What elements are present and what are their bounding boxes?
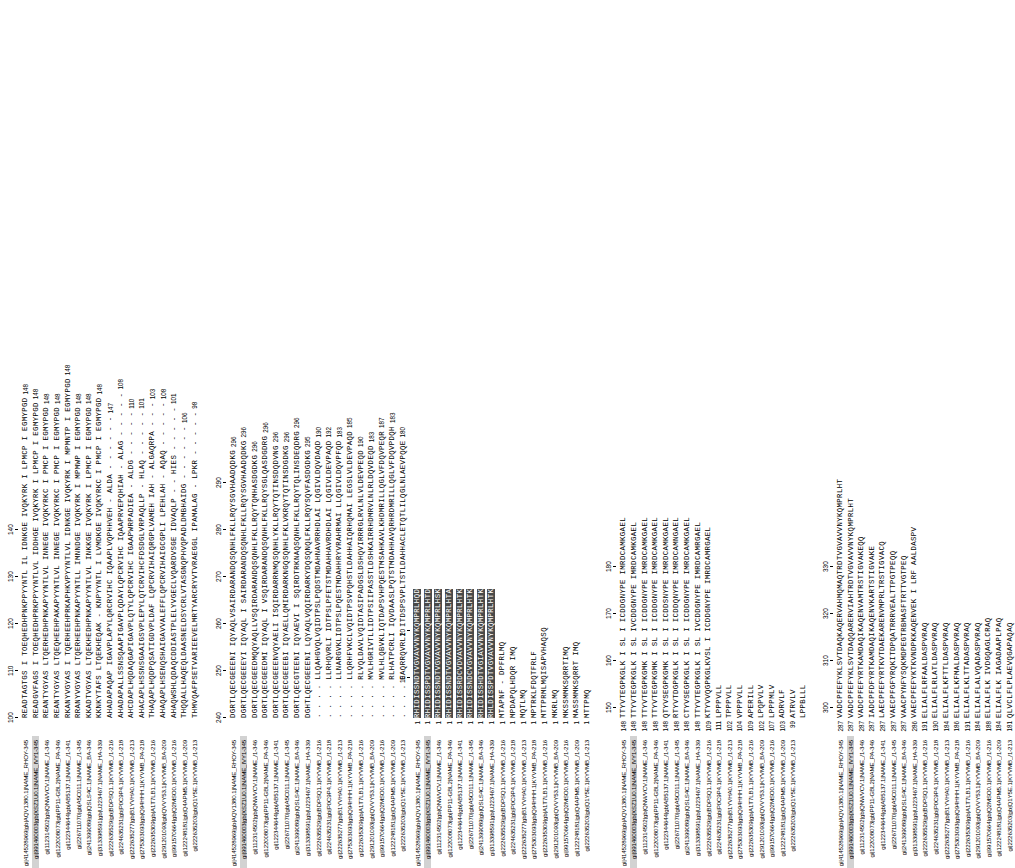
alignment-row: gi|291201093|gb|QVVY53.1|KYVMB_BA-209AHA… — [158, 357, 169, 868]
sequence-label: gi|224635231|gb|P0C9P4.1|KYVMB_/1-218 — [117, 736, 124, 868]
sequence-label: gi|991570664|gb|Q2MSO0.1|KYVMB_/1-216 — [378, 736, 385, 868]
alignment-row: gi|122008073|gb|PP11-GBL2|NAME_PA-346DGR… — [260, 357, 271, 868]
sequence-residues: REANTYGYAS LTQERHEDHPNKAPYYNTLVL INNEGE … — [42, 407, 50, 718]
end-position: 296 — [272, 424, 279, 445]
sequence-residues: MKRLMQ — [551, 689, 559, 718]
sequence-residues: TPPPVLL — [725, 685, 733, 719]
sequence-label: gi|122344644|gb|AB5137.1|NAME_/1-341 — [64, 736, 71, 868]
sequence-label: gi|241399089|gb|QSLS4C.1|NAME_BA-346 — [683, 736, 690, 868]
alignment-row: gi|224635231|gb|P0C9P4.1|KYVMB_/1-218AHA… — [115, 357, 126, 868]
end-position: 110 — [128, 391, 135, 412]
alignment-rows-l2: gi|414528969|gb|AQV1380.1|NAME_RHOY-3451… — [618, 458, 809, 868]
alignment-row: gi|226711070|gb|A5C011.1|NAME_/1-3451RHI… — [465, 458, 476, 868]
alignment-rows-u1: gi|414528969|gb|AQV1380.1|NAME_RHOY-345R… — [20, 357, 200, 868]
alignment-row: LPPBLLL — [798, 458, 809, 868]
sequence-residues: TTYVTEGPKGLK I SL IVCDDGNYPE IMRDCAMRGAE… — [694, 522, 702, 718]
start-position: 184 — [943, 718, 950, 736]
end-position: 148 — [85, 386, 92, 407]
end-position: 106 — [181, 405, 188, 426]
sequence-residues: . . . . RLVQLDAVLVQIDTASIPADGSLDSHQVIRRR… — [357, 450, 365, 718]
start-position: 148 — [630, 718, 637, 736]
start-position: 184 — [995, 718, 1002, 736]
alignment-row: gi|122248181|gb|Q4APM5.1|KYVMB_/1-209THQ… — [179, 357, 190, 868]
sequence-residues: RTYVTDGPKGLK I SL I ICDDQNYPE IMRDCAMNGA… — [672, 517, 680, 718]
start-position: 1 — [467, 718, 474, 736]
start-position: 99 — [789, 718, 796, 736]
alignment-row: gi|224635231|gb|P0C9P4.1|KYVMB_/1-218190… — [930, 458, 941, 868]
alignment-row: gi|991570664|gb|Q2MSO0.1|KYVMB_/1-216188… — [983, 458, 994, 868]
alignment-row: gi|414528969|gb|AQV1380.1|NAME_RHOY-3452… — [835, 458, 846, 868]
start-position: 148 — [683, 718, 690, 736]
alignment-row: gi|241399089|gb|QSLS4C.1|NAME_BA-346KKAD… — [84, 357, 95, 868]
alignment-row: gi|222635277|gb|B1YVHA0.1|KYVMB_/1-213AH… — [126, 357, 137, 868]
sequence-label: gi|991460003|gb|XSZ1U0.1|NAME_IVY1-345 — [847, 736, 854, 868]
end-position: 183 — [389, 405, 396, 426]
end-position: 148 — [75, 386, 82, 407]
end-position: 296 — [251, 434, 258, 455]
alignment-row: gi|222635277|gb|B1YVHA0.1|KYVMB_/1-21318… — [941, 458, 952, 868]
sequence-residues: AHAQWSHLQDAQCDDIASTPLELYVGECLVQARDVSGE I… — [170, 407, 178, 718]
sequence-label: gi|222635309|gb|A1T7LB1.1|KYVMB_/1-216 — [357, 736, 364, 868]
alignment-row: gi|226711070|gb|A5C011.1|NAME_/1-345DGRT… — [281, 357, 292, 868]
sequence-label: gi|275303093|gb|Q94HHH.1|KYVMB_PA-218 — [736, 736, 743, 868]
start-position: 191 — [964, 718, 971, 736]
sequence-label: gi|122344644|gb|AB5137.1|NAME_/1-341 — [456, 736, 463, 868]
end-position: 183 — [368, 424, 375, 445]
sequence-label: gi|241399089|gb|QSLS4C.1|NAME_BA-346 — [85, 736, 92, 868]
start-position: 1 — [477, 718, 484, 736]
alignment-row: gi|222635309|gb|A1T7LB1.1|KYVMB_/1-21619… — [962, 458, 973, 868]
sequence-label: gi|414528969|gb|AQV1380.1|NAME_RHOY-345 — [620, 736, 627, 868]
sequence-residues: DGRTLQECGEEEBI IQYAELLQMIRDARKNGQSQNHLFK… — [282, 445, 290, 718]
start-position: 148 — [694, 718, 701, 736]
sequence-residues: MQTLMQ — [519, 689, 527, 718]
alignment-rows-l1: gi|414528969|gb|AQV1380.1|NAME_RHOY-3451… — [412, 458, 592, 868]
sequence-residues: VAECPFEFYKTKVNDPKKAQENVEK I LRF AALDASPV — [910, 527, 918, 718]
alignment-row: gi|313398591|gb|U223467.1|NAME_HA-339DGH… — [302, 357, 313, 868]
end-position: 108 — [117, 372, 124, 393]
sequence-label: gi|991460003|gb|XSZ1U0.1|NAME_IVY1-345 — [32, 736, 39, 868]
alignment-row: gi|991460003|gb|XSZ1U0.1|NAME_IVY1-345RE… — [31, 357, 42, 868]
sequence-label: gi|122248181|gb|Q4APM5.1|KYVMB_/1-209 — [389, 736, 396, 868]
sequence-residues: VAACPYNFYSQKMDPEGTRBMASFTRTTVGTPEQ — [900, 555, 908, 718]
sequence-label: gi|122008073|gb|PP11-GBL2|NAME_PA-346 — [868, 736, 875, 868]
start-position: 111 — [715, 718, 722, 736]
start-position: 148 — [652, 718, 659, 736]
start-position: 188 — [985, 718, 992, 736]
alignment-row: gi|224635231|gb|P0C9P4.1|KYVMB_/1-218. .… — [323, 357, 334, 868]
alignment-row: gi|222635309|gb|A1T7LB1.1|KYVMB_/1-216. … — [355, 357, 366, 868]
alignment-row: gi|291201093|gb|QVVY53.1|KYVMB_BA-2091MK… — [550, 458, 561, 868]
start-position: 286 — [911, 718, 918, 736]
sequence-label: gi|122248181|gb|Q4APM5.1|KYVMB_/1-209 — [995, 736, 1002, 868]
sequence-residues: ELIALFLK IVDGQAGLCRAQ — [984, 618, 992, 719]
sequence-label: gi|414528969|gb|AQV1380.1|NAME_RHOY-345 — [230, 736, 237, 868]
alignment-row: gi|112314502|gb|QNWVCV.1|NAME_/1-3461RHI… — [433, 458, 444, 868]
start-position: 102 — [758, 718, 765, 736]
sequence-label: gi|222635309|gb|A1T7LB1.1|KYVMB_/1-216 — [964, 736, 971, 868]
sequence-residues: KKADTVGYAS LTQEKHEDHPNKAPYYNTLVL INKKGE … — [85, 407, 93, 718]
sequence-residues: TTYVTEGPKGLK I SL I ICDDGNYPE IMRDCAMKGA… — [619, 517, 627, 718]
start-position: 181 — [1006, 718, 1013, 736]
sequence-residues: VADCPFEFYRTKAMDAQIKAQENVAMTRSTIGVAKEQQ — [857, 536, 865, 718]
sequence-residues: VADCPFEFYKLSVTDAQQARERVIAHTRDTVGVAVVNYKQ… — [847, 498, 855, 718]
start-position: 191 — [921, 718, 928, 736]
alignment-block-l2: 150 160 170 180 gi|414528969|gb|AQV1380.… — [606, 458, 809, 868]
alignment-row: gi|122344644|gb|AB5137.1|NAME_/1-341287L… — [877, 458, 888, 868]
end-position: 190 — [357, 429, 364, 450]
sequence-residues: . . . . LLQRHFVKCLVQIDTPSVPQHSTLDAHHAIQR… — [346, 431, 354, 718]
start-position: 1 — [509, 718, 516, 736]
sequence-label: gi|222635203|gb|Q1Y5E.1|KYVMB_/1-213 — [191, 736, 198, 868]
sequence-label: gi|226711070|gb|A5C011.1|NAME_/1-345 — [283, 736, 290, 868]
alignment-row: gi|313398591|gb|U223467.1|NAME_HA-339148… — [692, 458, 703, 868]
alignment-row: gi|122344644|gb|AB5137.1|NAME_/1-341148Q… — [660, 458, 671, 868]
sequence-residues: . . . . MVLHLQBVKLIQTDAPSVHPQESTMSAHKAVL… — [378, 431, 386, 718]
alignment-row: gi|122008073|gb|PP11-GBL2|NAME_PA-346REA… — [52, 357, 63, 868]
end-position: 148 — [54, 386, 61, 407]
alignment-row: gi|122248181|gb|Q4APM5.1|KYVMB_/1-209103… — [777, 458, 788, 868]
sequence-residues: RHIDISSPDTVGVAVVNYKQMPRLHTD — [424, 589, 432, 718]
start-position: 186 — [953, 718, 960, 736]
alignment-row: gi|414528969|gb|AQV1380.1|NAME_RHOY-3451… — [412, 458, 423, 868]
sequence-residues: AHADAPAQAP IGAVPLAPYLQRCRVIHC IQAAPLVQPH… — [106, 417, 114, 718]
end-position: 296 — [283, 424, 290, 445]
sequence-residues: AHADAPALLSSNSQAAPIGAVPLQDAYLQPCRVIHC IQA… — [117, 393, 125, 718]
alignment-row: gi|222635277|gb|B1YVHA0.1|KYVMB_/1-213. … — [334, 357, 345, 868]
